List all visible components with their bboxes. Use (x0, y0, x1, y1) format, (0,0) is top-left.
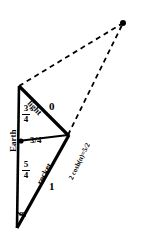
angle-alpha-label: α (19, 209, 24, 218)
upper-dashed-sightline (19, 23, 123, 86)
earth-axis-label: Earth (9, 130, 18, 153)
interval-one-label: 1 (49, 181, 55, 192)
earth-upper-numerator: 3 (22, 104, 30, 113)
earth-upper-fraction: 3 4 (22, 104, 30, 125)
earth-midpoint-event-dot (18, 138, 23, 143)
distant-event-dot (120, 20, 126, 26)
simultaneity-length-label: 3/4 (30, 136, 42, 145)
lower-dashed-sightline (68, 23, 123, 135)
earth-upper-denominator: 4 (22, 115, 30, 124)
earth-lower-denominator: 4 (22, 171, 30, 180)
interval-zero-label: 0 (49, 101, 55, 112)
earth-lower-numerator: 5 (22, 160, 30, 169)
earth-worldline (17, 86, 19, 228)
earth-lower-fraction: 5 4 (22, 160, 30, 181)
simultaneity-line (18, 135, 68, 141)
spacetime-diagram: Earth light rocket 2 cosh(α)=5/2 0 1 3/4… (0, 0, 149, 235)
